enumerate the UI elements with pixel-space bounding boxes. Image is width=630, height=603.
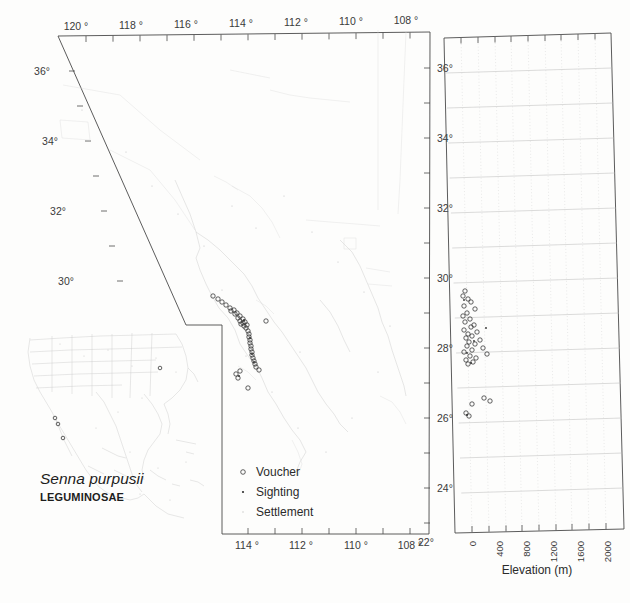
figure-page: Voucher Sighting Settlement Senna purpus… <box>0 0 630 603</box>
legend-sighting-icon <box>242 491 244 493</box>
map-top-label-1: 118 ° <box>119 19 143 31</box>
elev-tick-1: 400 <box>494 541 505 557</box>
taxon-caption: Senna purpusii LEGUMINOSAE <box>40 470 144 503</box>
map-bottom-axis-labels: 114 ° 112 ° 110 ° 108 ° <box>235 539 422 551</box>
map-top-axis-labels: 120 ° 118 ° 116 ° 114 ° 112 ° 110 ° 108 … <box>64 14 419 32</box>
map-left-ticks <box>69 71 123 281</box>
elevation-panel: 0 400 800 1200 1600 2000 Elevation (m) <box>444 33 624 577</box>
map-right-label-1: 34° <box>437 132 453 144</box>
map-left-label-3: 30° <box>58 275 74 287</box>
map-left-axis-labels: 36° 34° 32° 30° <box>34 65 74 287</box>
elevation-voucher-points <box>461 289 492 418</box>
map-right-axis-labels: 36° 34° 32° 30° 28° 26° 24° 22° <box>418 62 453 548</box>
map-right-label-3: 30° <box>437 272 453 284</box>
elev-tick-4: 1600 <box>575 541 586 562</box>
map-left-label-0: 36° <box>34 65 50 77</box>
map-top-label-6: 108 ° <box>394 14 419 26</box>
map-bottom-label-0: 114 ° <box>235 539 259 551</box>
map-right-label-7: 22° <box>418 536 434 548</box>
map-bottom-label-1: 112 ° <box>289 539 313 551</box>
elev-tick-2: 800 <box>521 541 532 557</box>
inset-voucher-points <box>53 366 162 440</box>
map-right-label-6: 24° <box>437 482 453 494</box>
map-top-label-4: 112 ° <box>284 16 308 28</box>
legend: Voucher Sighting Settlement <box>241 465 314 519</box>
legend-label-voucher: Voucher <box>256 465 300 479</box>
elevation-sighting-points <box>463 299 487 416</box>
map-top-label-5: 110 ° <box>339 15 363 27</box>
map-right-label-2: 32° <box>437 202 453 214</box>
legend-voucher-icon <box>241 470 246 475</box>
map-panel-border <box>58 32 430 534</box>
map-top-label-0: 120 ° <box>64 20 89 32</box>
map-bottom-label-2: 110 ° <box>344 539 368 551</box>
legend-label-settlement: Settlement <box>256 505 314 519</box>
elevation-x-tick-labels: 0 400 800 1200 1600 2000 <box>467 541 613 562</box>
map-panel <box>58 30 430 534</box>
legend-settlement-icon <box>242 511 243 512</box>
elevation-panel-border <box>444 33 624 533</box>
family-name: LEGUMINOSAE <box>40 491 124 503</box>
settlement-points <box>81 109 390 452</box>
elevation-horizontal-gridlines <box>446 68 624 493</box>
figure-canvas: Voucher Sighting Settlement Senna purpus… <box>0 0 630 603</box>
taxon-name: Senna purpusii <box>40 470 144 487</box>
map-bottom-ticks <box>248 528 410 534</box>
map-top-label-3: 114 ° <box>229 17 253 29</box>
map-right-label-5: 26° <box>437 412 453 424</box>
elev-tick-5: 2000 <box>602 541 613 562</box>
elevation-axis-title: Elevation (m) <box>502 563 573 577</box>
map-left-label-1: 34° <box>42 135 58 147</box>
elev-tick-0: 0 <box>467 541 478 546</box>
map-coastlines <box>60 30 406 476</box>
map-left-label-2: 32° <box>50 205 66 217</box>
map-top-label-2: 116 ° <box>174 18 198 30</box>
elev-tick-3: 1200 <box>548 541 559 562</box>
legend-label-sighting: Sighting <box>256 485 299 499</box>
